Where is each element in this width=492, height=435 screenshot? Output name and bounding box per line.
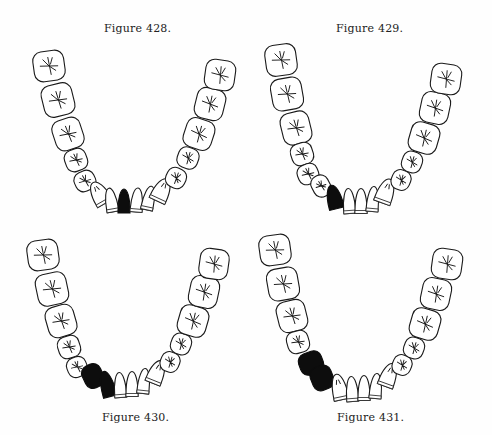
fig431-arch — [258, 233, 464, 402]
incisor-tooth — [342, 188, 356, 214]
molar-tooth — [419, 276, 454, 312]
incisor-tooth — [345, 376, 359, 402]
molar-tooth — [26, 238, 61, 272]
incisor-tooth — [358, 376, 370, 401]
book-plate: Figure 428. Figure 429. Figure 430. Figu… — [0, 0, 492, 435]
dental-arch-illustrations — [0, 0, 492, 435]
molar-tooth — [265, 266, 301, 303]
fig429-arch — [263, 42, 462, 213]
fig430-arch — [26, 238, 231, 398]
figure-430-caption: Figure 430. — [102, 411, 169, 424]
molar-tooth — [430, 247, 464, 281]
highlighted-incisor-tooth — [118, 189, 130, 213]
molar-tooth — [198, 247, 231, 281]
molar-tooth — [429, 62, 463, 96]
molar-tooth — [278, 109, 314, 147]
fig428-arch — [32, 49, 237, 213]
molar-tooth — [263, 42, 298, 77]
figure-428-caption: Figure 428. — [104, 22, 171, 35]
incisor-tooth — [113, 372, 127, 398]
figure-431-caption: Figure 431. — [337, 411, 404, 424]
incisor-tooth — [355, 189, 367, 214]
molar-tooth — [418, 90, 453, 126]
molar-tooth — [49, 115, 86, 153]
molar-tooth — [34, 270, 71, 308]
figure-429-caption: Figure 429. — [336, 22, 403, 35]
molar-tooth — [258, 233, 293, 267]
molar-tooth — [203, 58, 237, 92]
molar-tooth — [43, 302, 79, 340]
molar-tooth — [269, 76, 305, 113]
molar-tooth — [39, 81, 77, 120]
molar-tooth — [32, 49, 67, 83]
molar-tooth — [274, 297, 310, 334]
